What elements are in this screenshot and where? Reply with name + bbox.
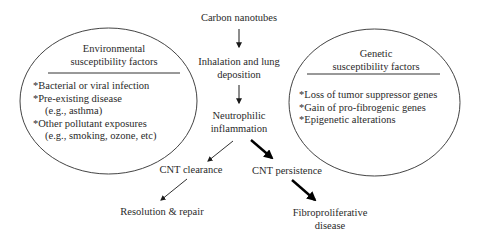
genetic-factor-item: *Loss of tumor suppressor genes: [299, 89, 437, 102]
node-cnt-clearance: CNT clearance: [151, 164, 231, 177]
environmental-factor-item: *Other pollutant exposures: [33, 118, 156, 131]
node-inflammation-line1: Neutrophilic: [199, 110, 279, 123]
environmental-factor-list: *Bacterial or viral infection *Pre-exist…: [33, 80, 156, 143]
environmental-title-line2: susceptibility factors: [52, 56, 176, 69]
arrow-clearance-to-resolution: [161, 179, 187, 200]
node-fibroproliferative-disease: Fibroproliferative disease: [280, 207, 380, 232]
environmental-factor-example: (e.g., smoking, ozone, etc): [33, 130, 156, 143]
genetic-factor-list: *Loss of tumor suppressor genes *Gain of…: [299, 89, 437, 127]
environmental-factor-example: (e.g., asthma): [33, 105, 156, 118]
node-carbon-nanotubes: Carbon nanotubes: [189, 12, 289, 25]
genetic-title-line2: susceptibility factors: [314, 61, 438, 74]
arrow-inflammation-to-clearance: [208, 141, 233, 161]
environmental-title: Environmental susceptibility factors: [52, 43, 176, 68]
node-fibro-line2: disease: [280, 220, 380, 233]
genetic-title: Genetic susceptibility factors: [314, 48, 438, 73]
cnt-pathogenesis-diagram: Carbon nanotubes Inhalation and lung dep…: [0, 0, 478, 240]
node-resolution-repair: Resolution & repair: [112, 206, 212, 219]
genetic-title-line1: Genetic: [314, 48, 438, 61]
node-inhalation-line1: Inhalation and lung: [189, 56, 289, 69]
genetic-factor-item: *Gain of pro-fibrogenic genes: [299, 102, 437, 115]
environmental-factor-item: *Pre-existing disease: [33, 93, 156, 106]
genetic-factor-item: *Epigenetic alterations: [299, 114, 437, 127]
node-cnt-persistence: CNT persistence: [242, 165, 332, 178]
node-inhalation-line2: deposition: [189, 69, 289, 82]
environmental-title-line1: Environmental: [52, 43, 176, 56]
node-fibro-line1: Fibroproliferative: [280, 207, 380, 220]
node-inhalation-deposition: Inhalation and lung deposition: [189, 56, 289, 81]
node-inflammation-line2: inflammation: [199, 123, 279, 136]
arrow-inflammation-to-persistence: [251, 140, 272, 158]
environmental-factor-item: *Bacterial or viral infection: [33, 80, 156, 93]
arrow-persistence-to-fibroproliferative: [292, 180, 315, 200]
node-neutrophilic-inflammation: Neutrophilic inflammation: [199, 110, 279, 135]
